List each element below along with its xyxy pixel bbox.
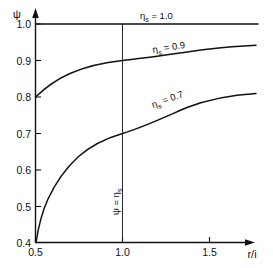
curve-label-2-value: = 0.9 xyxy=(160,39,185,54)
curve-label-eta-0.7: ηs = 0.7 xyxy=(150,88,185,111)
x-tick-label-1.0: 1.0 xyxy=(115,246,130,258)
y-tick-label-0.5: 0.5 xyxy=(16,201,31,213)
chart-svg: 1.0 0.9 0.8 0.7 0.6 0.5 0.4 0.5 1.0 1.5 … xyxy=(0,0,273,268)
y-axis xyxy=(32,8,39,243)
curve-label-eta-1.0: ηs = 1.0 xyxy=(140,10,173,23)
y-tick-label-0.7: 0.7 xyxy=(16,128,31,140)
curve-label-1-value: = 1.0 xyxy=(149,10,173,21)
y-axis-title: ψ xyxy=(13,8,21,20)
x-tick-label-1.5: 1.5 xyxy=(202,246,217,258)
curve-eta-0.9 xyxy=(36,45,257,97)
x-axis-arrow-icon xyxy=(245,239,255,246)
vline-annotation-subscript: s xyxy=(116,188,123,192)
y-tick-label-0.8: 0.8 xyxy=(16,91,31,103)
x-axis-tick-labels: 0.5 1.0 1.5 xyxy=(28,246,217,258)
y-axis-arrow-icon xyxy=(32,8,39,18)
curve-eta-0.7 xyxy=(36,94,256,243)
svg-text:ηs = 0.7: ηs = 0.7 xyxy=(150,88,185,111)
x-axis xyxy=(36,239,256,246)
y-axis-ticks xyxy=(36,24,42,243)
y-tick-label-0.6: 0.6 xyxy=(16,164,31,176)
svg-text:ψ = ηs: ψ = ηs xyxy=(110,188,123,215)
x-tick-label-0.5: 0.5 xyxy=(28,246,43,258)
curve-label-3-value: = 0.7 xyxy=(158,88,184,107)
x-axis-title: r/i xyxy=(247,248,256,260)
svg-text:ηs = 1.0: ηs = 1.0 xyxy=(140,10,173,23)
y-axis-tick-labels: 1.0 0.9 0.8 0.7 0.6 0.5 0.4 xyxy=(16,18,31,249)
vertical-line-annotation: ψ = ηs xyxy=(110,188,123,215)
chart-container: 1.0 0.9 0.8 0.7 0.6 0.5 0.4 0.5 1.0 1.5 … xyxy=(0,0,273,268)
vline-annotation-text: ψ = η xyxy=(110,192,121,215)
y-tick-label-0.9: 0.9 xyxy=(16,55,31,67)
